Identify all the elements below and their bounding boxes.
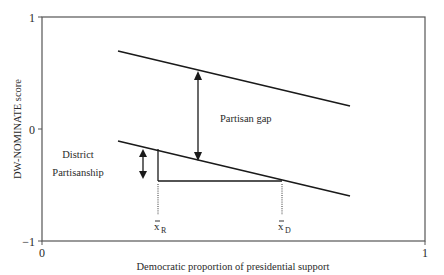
svg-text:x: x xyxy=(154,220,160,232)
y-axis-title: DW-NOMINATE score xyxy=(12,79,23,179)
district-partisanship-arrow xyxy=(139,149,147,179)
partisan-gap-label: Partisan gap xyxy=(220,113,272,124)
diagram-canvas: 1 0 −1 0 1 Democratic proportion of pres… xyxy=(0,0,444,275)
plot-frame xyxy=(42,17,425,241)
x-tick-0: 0 xyxy=(39,246,45,260)
y-tick-0: 0 xyxy=(29,123,35,137)
y-axis-ticks xyxy=(38,17,425,245)
svg-text:D: D xyxy=(285,226,291,235)
y-tick-neg1: −1 xyxy=(22,235,35,249)
district-label-line1: District xyxy=(62,149,94,160)
upper-party-line xyxy=(118,51,350,106)
svg-text:R: R xyxy=(161,226,167,235)
svg-text:x: x xyxy=(278,220,284,232)
x-axis-title: Democratic proportion of presidential su… xyxy=(136,261,329,272)
x-tick-1: 1 xyxy=(422,246,428,260)
y-tick-1: 1 xyxy=(29,11,35,25)
xd-marker-label: x D xyxy=(278,220,291,235)
lower-party-line xyxy=(118,141,350,196)
xr-marker-label: x R xyxy=(154,220,167,235)
partisan-gap-arrow xyxy=(194,71,202,161)
district-label-line2: Partisanship xyxy=(52,167,103,178)
